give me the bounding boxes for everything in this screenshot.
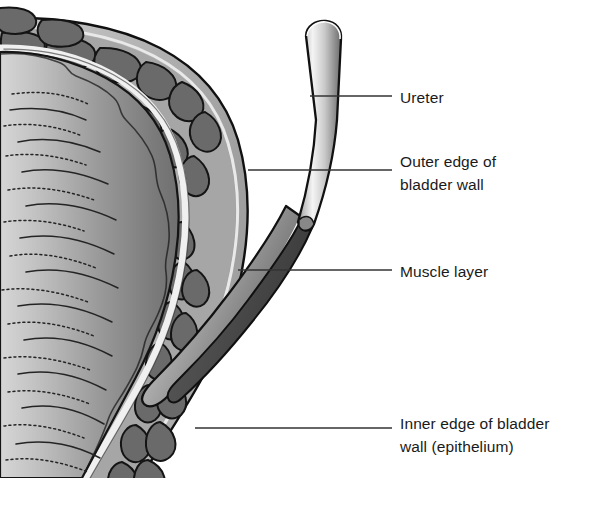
ureter-tube	[298, 21, 341, 231]
bladder-wall-group	[0, 8, 248, 499]
callout-label-inner-edge: Inner edge of bladder wall (epithelium)	[400, 412, 549, 458]
ureter-junction-shadow	[299, 217, 314, 231]
figure-container: Ureter Outer edge of bladder wall Muscle…	[0, 0, 594, 510]
callout-label-outer-edge: Outer edge of bladder wall	[400, 150, 496, 196]
callout-label-muscle-layer: Muscle layer	[400, 260, 488, 283]
callout-label-ureter: Ureter	[400, 86, 444, 109]
